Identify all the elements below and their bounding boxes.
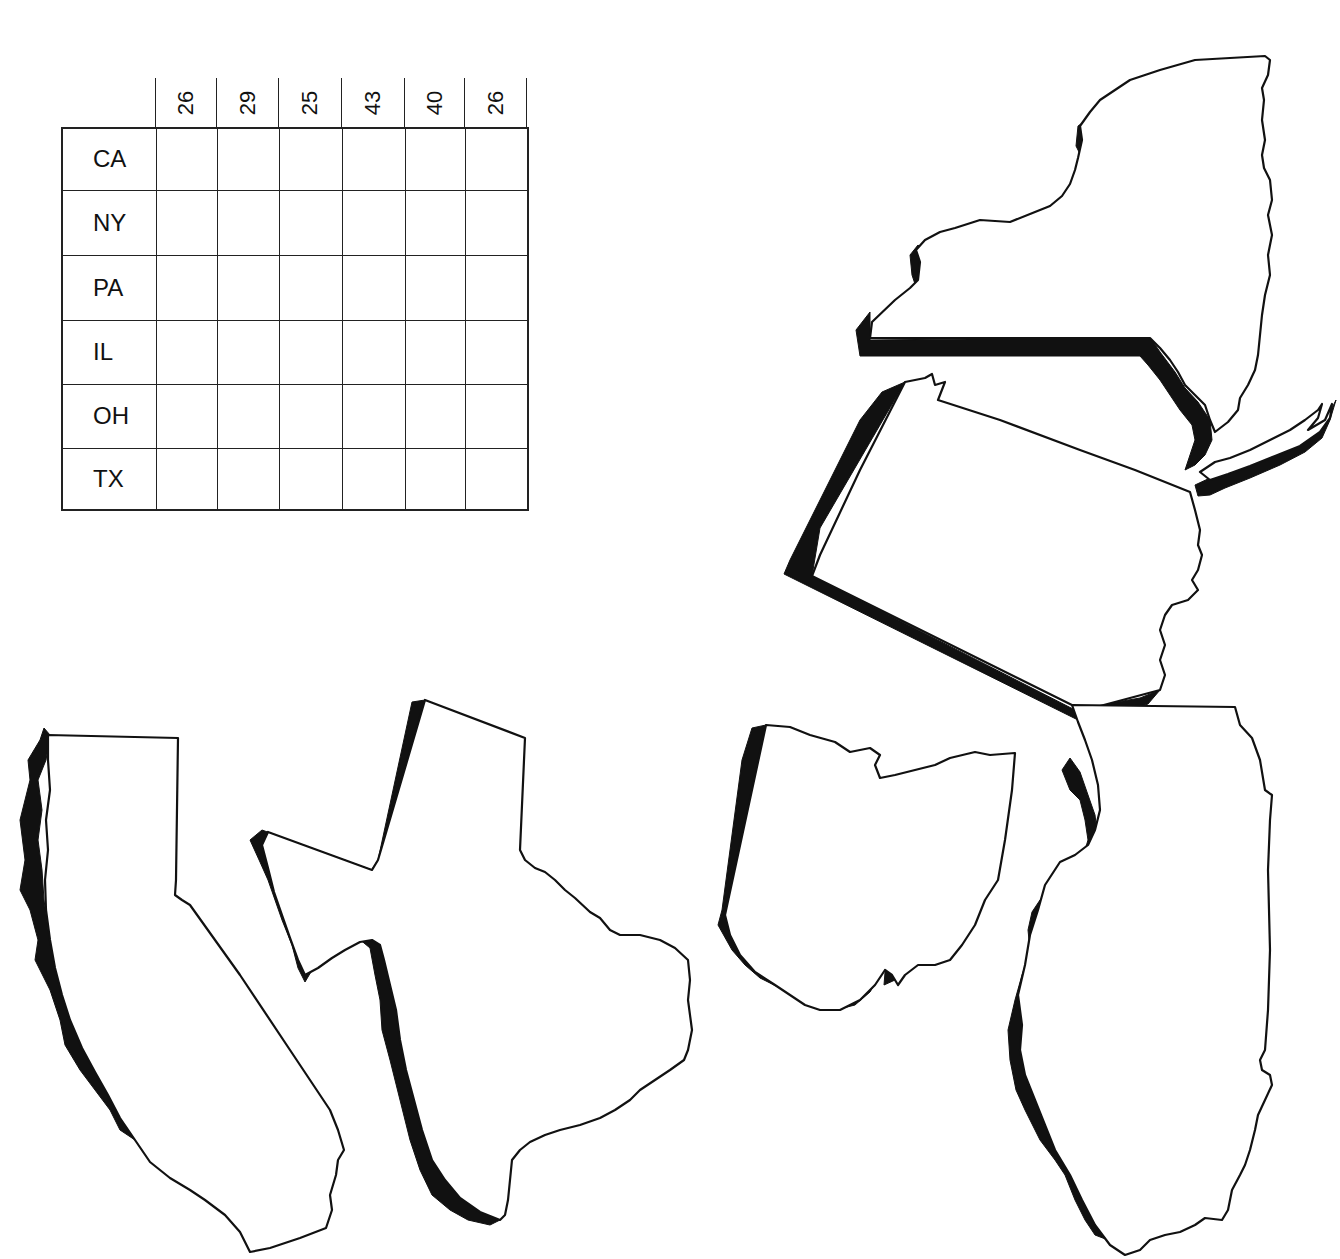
- illinois-cutout[interactable]: [1008, 705, 1272, 1255]
- illinois-outline: [1018, 705, 1272, 1255]
- state-cutouts: [0, 0, 1340, 1259]
- california-outline: [45, 735, 344, 1252]
- ohio-cutout[interactable]: [718, 725, 1015, 1010]
- pennsylvania-cutout[interactable]: [784, 374, 1202, 720]
- california-cutout[interactable]: [20, 728, 344, 1252]
- ohio-outline: [725, 725, 1015, 1010]
